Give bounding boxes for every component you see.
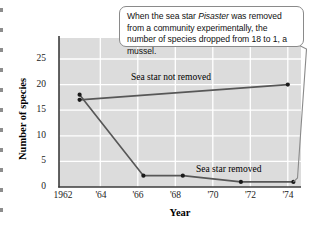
plot-area-background: [59, 38, 301, 187]
y-tick-label-10: 10: [20, 130, 46, 140]
y-tick-label-20: 20: [20, 79, 46, 89]
callout-text-before: When the sea star: [127, 11, 198, 21]
series-label-sea-star-removed: Sea star removed: [196, 164, 261, 174]
x-tick-label-70: '70: [196, 190, 230, 200]
page-edge-marks: [0, 8, 3, 212]
x-axis-title: Year: [140, 207, 220, 218]
figure-container: Number of species 25 20 15 10 5 0 1962 '…: [0, 0, 331, 233]
y-tick-label-5: 5: [20, 155, 46, 165]
x-tick-label-72: '72: [234, 190, 268, 200]
y-tick-label-15: 15: [20, 104, 46, 114]
callout-box: When the sea star Pisaster was removed f…: [119, 6, 304, 47]
x-tick-label-74: '74: [271, 190, 305, 200]
x-tick-label-1962: 1962: [46, 190, 80, 200]
x-tick-label-64: '64: [84, 190, 118, 200]
y-axis-title: Number of species: [17, 78, 28, 160]
x-tick-label-66: '66: [121, 190, 155, 200]
x-tick-label-68: '68: [159, 190, 193, 200]
series-label-sea-star-not-removed: Sea star not removed: [131, 72, 211, 82]
y-tick-label-25: 25: [20, 53, 46, 63]
y-tick-label-0: 0: [20, 181, 46, 191]
callout-text-italic: Pisaster: [198, 11, 229, 21]
